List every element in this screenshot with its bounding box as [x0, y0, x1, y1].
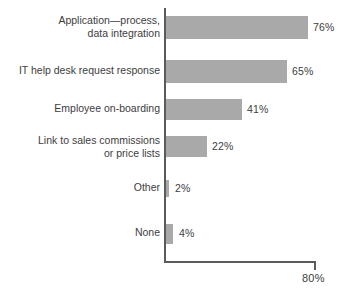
category-label: Link to sales commissions or price lists [38, 134, 160, 159]
value-axis-end-tick [314, 261, 316, 270]
category-label: IT help desk request response [19, 64, 160, 77]
bar-chart: 80% Application—process, data integratio… [0, 0, 347, 294]
category-label: Application—process, data integration [58, 14, 160, 39]
category-label: Employee on-boarding [54, 102, 160, 115]
bar-segment [166, 224, 174, 244]
category-label: None [135, 226, 160, 239]
bar-value-label: 41% [247, 103, 269, 115]
bar-segment [166, 60, 288, 83]
value-axis-line [164, 261, 316, 263]
bar-value-label: 4% [179, 227, 195, 239]
bar-segment [166, 136, 207, 157]
bar-value-label: 65% [292, 65, 314, 77]
bar-value-label: 76% [313, 21, 335, 33]
bar-segment [166, 180, 170, 197]
bar-segment [166, 99, 243, 120]
value-axis-end-label: 80% [302, 272, 325, 284]
bar-value-label: 2% [175, 182, 191, 194]
bar-value-label: 22% [212, 140, 234, 152]
category-label: Other [134, 181, 160, 194]
bar-segment [166, 16, 309, 39]
